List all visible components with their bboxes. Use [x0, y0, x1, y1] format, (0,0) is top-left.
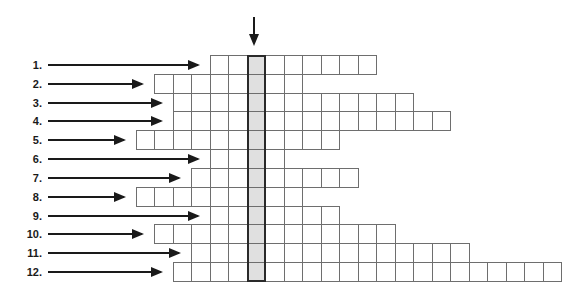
key-cell[interactable] [247, 206, 267, 226]
letter-cell[interactable] [265, 55, 285, 75]
letter-cell[interactable] [321, 111, 341, 131]
letter-cell[interactable] [173, 224, 193, 244]
letter-cell[interactable] [173, 187, 193, 207]
letter-cell[interactable] [302, 130, 322, 150]
letter-cell[interactable] [450, 262, 470, 282]
letter-cell[interactable] [469, 262, 489, 282]
letter-cell[interactable] [395, 262, 415, 282]
letter-cell[interactable] [284, 168, 304, 188]
letter-cell[interactable] [210, 74, 230, 94]
letter-cell[interactable] [228, 111, 248, 131]
letter-cell[interactable] [265, 168, 285, 188]
letter-cell[interactable] [284, 74, 304, 94]
letter-cell[interactable] [506, 262, 526, 282]
letter-cell[interactable] [302, 168, 322, 188]
letter-cell[interactable] [265, 149, 285, 169]
key-cell[interactable] [247, 168, 267, 188]
key-cell[interactable] [247, 262, 267, 282]
letter-cell[interactable] [395, 93, 415, 113]
letter-cell[interactable] [265, 130, 285, 150]
letter-cell[interactable] [358, 111, 378, 131]
letter-cell[interactable] [432, 262, 452, 282]
letter-cell[interactable] [339, 168, 359, 188]
letter-cell[interactable] [265, 93, 285, 113]
letter-cell[interactable] [154, 187, 174, 207]
letter-cell[interactable] [524, 262, 544, 282]
letter-cell[interactable] [210, 149, 230, 169]
letter-cell[interactable] [191, 168, 211, 188]
letter-cell[interactable] [210, 206, 230, 226]
letter-cell[interactable] [136, 130, 156, 150]
letter-cell[interactable] [191, 93, 211, 113]
letter-cell[interactable] [358, 262, 378, 282]
letter-cell[interactable] [228, 149, 248, 169]
letter-cell[interactable] [284, 93, 304, 113]
letter-cell[interactable] [265, 262, 285, 282]
key-cell[interactable] [247, 74, 267, 94]
letter-cell[interactable] [210, 130, 230, 150]
letter-cell[interactable] [228, 168, 248, 188]
letter-cell[interactable] [228, 130, 248, 150]
letter-cell[interactable] [321, 224, 341, 244]
letter-cell[interactable] [191, 243, 211, 263]
letter-cell[interactable] [339, 93, 359, 113]
letter-cell[interactable] [173, 74, 193, 94]
letter-cell[interactable] [358, 55, 378, 75]
letter-cell[interactable] [321, 206, 341, 226]
letter-cell[interactable] [302, 262, 322, 282]
letter-cell[interactable] [284, 224, 304, 244]
letter-cell[interactable] [395, 243, 415, 263]
letter-cell[interactable] [228, 206, 248, 226]
letter-cell[interactable] [191, 111, 211, 131]
letter-cell[interactable] [154, 74, 174, 94]
letter-cell[interactable] [376, 93, 396, 113]
letter-cell[interactable] [321, 93, 341, 113]
letter-cell[interactable] [136, 187, 156, 207]
letter-cell[interactable] [339, 224, 359, 244]
letter-cell[interactable] [284, 130, 304, 150]
letter-cell[interactable] [191, 224, 211, 244]
letter-cell[interactable] [302, 111, 322, 131]
letter-cell[interactable] [339, 55, 359, 75]
letter-cell[interactable] [339, 111, 359, 131]
key-cell[interactable] [247, 130, 267, 150]
letter-cell[interactable] [358, 243, 378, 263]
letter-cell[interactable] [339, 262, 359, 282]
letter-cell[interactable] [228, 243, 248, 263]
letter-cell[interactable] [284, 243, 304, 263]
letter-cell[interactable] [228, 55, 248, 75]
key-cell[interactable] [247, 111, 267, 131]
letter-cell[interactable] [173, 130, 193, 150]
letter-cell[interactable] [432, 111, 452, 131]
letter-cell[interactable] [210, 187, 230, 207]
letter-cell[interactable] [302, 55, 322, 75]
letter-cell[interactable] [173, 111, 193, 131]
letter-cell[interactable] [228, 224, 248, 244]
letter-cell[interactable] [413, 243, 433, 263]
letter-cell[interactable] [321, 243, 341, 263]
letter-cell[interactable] [321, 55, 341, 75]
letter-cell[interactable] [210, 224, 230, 244]
letter-cell[interactable] [413, 262, 433, 282]
key-cell[interactable] [247, 93, 267, 113]
letter-cell[interactable] [154, 130, 174, 150]
letter-cell[interactable] [284, 111, 304, 131]
key-cell[interactable] [247, 55, 267, 75]
letter-cell[interactable] [191, 130, 211, 150]
letter-cell[interactable] [543, 262, 563, 282]
letter-cell[interactable] [376, 262, 396, 282]
letter-cell[interactable] [321, 262, 341, 282]
key-cell[interactable] [247, 149, 267, 169]
letter-cell[interactable] [284, 206, 304, 226]
letter-cell[interactable] [302, 243, 322, 263]
letter-cell[interactable] [265, 243, 285, 263]
letter-cell[interactable] [302, 93, 322, 113]
letter-cell[interactable] [321, 130, 341, 150]
letter-cell[interactable] [284, 55, 304, 75]
letter-cell[interactable] [487, 262, 507, 282]
letter-cell[interactable] [191, 187, 211, 207]
letter-cell[interactable] [376, 243, 396, 263]
key-cell[interactable] [247, 224, 267, 244]
letter-cell[interactable] [228, 93, 248, 113]
letter-cell[interactable] [358, 224, 378, 244]
